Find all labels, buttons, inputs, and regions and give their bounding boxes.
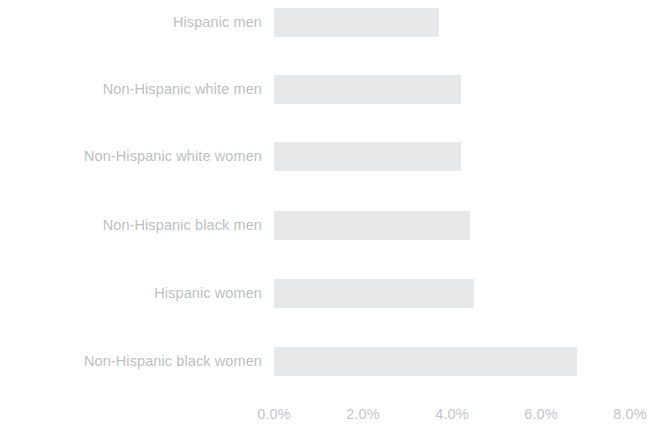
category-label: Non-Hispanic black men [0,211,262,240]
bar-row: Non-Hispanic white women [0,142,654,171]
bar [274,75,461,104]
bar-row: Non-Hispanic black men [0,211,654,240]
category-label: Hispanic men [0,8,262,37]
bar-row: Hispanic women [0,279,654,308]
plot-area: Hispanic men Non-Hispanic white men Non-… [0,0,654,396]
bar-row: Hispanic men [0,8,654,37]
bar-track [274,142,654,171]
bar-row: Non-Hispanic white men [0,75,654,104]
x-tick-label: 2.0% [346,406,379,422]
bar [274,347,577,376]
bar-track [274,347,654,376]
bar [274,142,461,171]
x-tick-label: 8.0% [613,406,646,422]
category-label: Hispanic women [0,279,262,308]
bar [274,211,470,240]
x-tick-label: 6.0% [524,406,557,422]
x-axis: 0.0% 2.0% 4.0% 6.0% 8.0% [0,396,654,435]
x-tick-label: 4.0% [435,406,468,422]
category-label: Non-Hispanic white men [0,75,262,104]
bar [274,279,474,308]
bar-track [274,75,654,104]
bar-row: Non-Hispanic black women [0,347,654,376]
category-label: Non-Hispanic black women [0,347,262,376]
bar-track [274,211,654,240]
bar [274,8,439,37]
bar-track [274,279,654,308]
category-label: Non-Hispanic white women [0,142,262,171]
x-tick-label: 0.0% [257,406,290,422]
bar-track [274,8,654,37]
horizontal-bar-chart: Hispanic men Non-Hispanic white men Non-… [0,0,654,435]
